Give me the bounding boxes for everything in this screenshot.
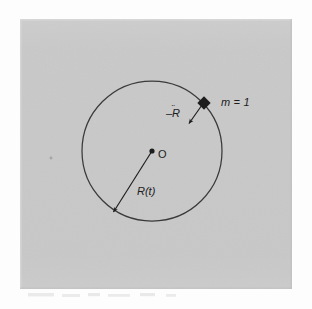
double-dot-accent: ¨ — [172, 104, 175, 113]
origin-label: O — [158, 149, 167, 160]
acceleration-symbol: –R¨ — [166, 108, 180, 119]
figure-root: m = 1 –R¨ R(t) O — [0, 0, 312, 309]
speck-artifact — [50, 157, 53, 160]
diagram-canvas — [0, 0, 312, 309]
scan-panel — [20, 19, 292, 289]
radius-label: R(t) — [137, 186, 155, 197]
mass-label: m = 1 — [221, 97, 250, 108]
origin-point — [149, 148, 154, 153]
acceleration-label: –R¨ — [166, 108, 180, 119]
